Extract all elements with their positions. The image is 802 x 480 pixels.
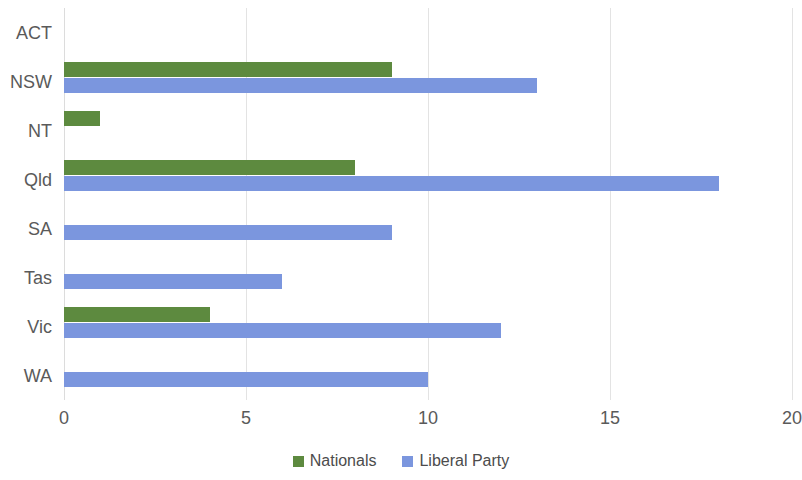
bar-qld-nationals[interactable]: [64, 160, 355, 175]
bar-group-wa: [64, 351, 792, 400]
plot-area: [64, 8, 792, 400]
bar-vic-liberal-party[interactable]: [64, 323, 501, 338]
bar-group-nsw: [64, 57, 792, 106]
y-axis-label-vic: Vic: [0, 318, 52, 336]
legend-item-liberal-party[interactable]: Liberal Party: [402, 452, 509, 470]
bar-chart: ACTNSWNTQldSATasVicWA 05101520 Nationals…: [0, 0, 802, 480]
y-axis-label-nsw: NSW: [0, 73, 52, 91]
bar-group-tas: [64, 253, 792, 302]
bar-nsw-liberal-party[interactable]: [64, 78, 537, 93]
gridline-20: [792, 8, 793, 400]
legend-item-nationals[interactable]: Nationals: [293, 452, 377, 470]
bar-wa-liberal-party[interactable]: [64, 372, 428, 387]
bar-sa-liberal-party[interactable]: [64, 225, 392, 240]
x-axis-tick-0: 0: [34, 408, 94, 429]
y-axis-label-act: ACT: [0, 24, 52, 42]
x-axis-tick-5: 5: [216, 408, 276, 429]
bar-vic-nationals[interactable]: [64, 307, 210, 322]
bar-group-act: [64, 8, 792, 57]
x-axis-tick-10: 10: [398, 408, 458, 429]
legend-label: Liberal Party: [419, 452, 509, 470]
y-axis-label-tas: Tas: [0, 269, 52, 287]
y-axis-label-nt: NT: [0, 122, 52, 140]
bar-group-sa: [64, 204, 792, 253]
bar-group-qld: [64, 155, 792, 204]
bar-qld-liberal-party[interactable]: [64, 176, 719, 191]
bar-group-vic: [64, 302, 792, 351]
bar-nt-nationals[interactable]: [64, 111, 100, 126]
y-axis-label-sa: SA: [0, 220, 52, 238]
chart-legend: NationalsLiberal Party: [0, 452, 802, 470]
legend-label: Nationals: [310, 452, 377, 470]
legend-swatch-icon: [402, 456, 413, 467]
bar-nsw-nationals[interactable]: [64, 62, 392, 77]
y-axis-label-qld: Qld: [0, 171, 52, 189]
bar-tas-liberal-party[interactable]: [64, 274, 282, 289]
x-axis-tick-15: 15: [580, 408, 640, 429]
legend-swatch-icon: [293, 456, 304, 467]
bar-group-nt: [64, 106, 792, 155]
x-axis-tick-20: 20: [762, 408, 802, 429]
y-axis-label-wa: WA: [0, 367, 52, 385]
